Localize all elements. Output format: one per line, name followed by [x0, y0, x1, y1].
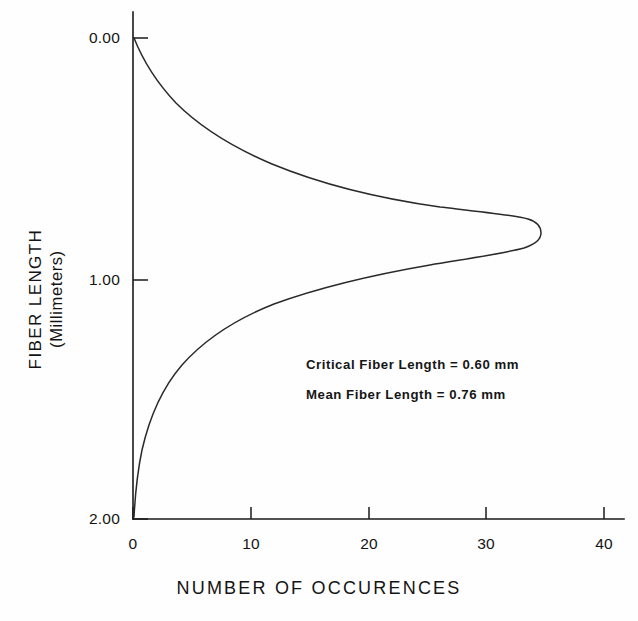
chart-figure: 0.00 1.00 2.00 0 10 20 30 40 FIBER LENGT… — [0, 0, 638, 621]
annotation-critical-fiber-length: Critical Fiber Length = 0.60 mm — [306, 357, 576, 372]
chart-annotations: Critical Fiber Length = 0.60 mm Mean Fib… — [306, 357, 576, 417]
y-axis-title: FIBER LENGTH (Millimeters) — [25, 169, 67, 429]
x-tick-label-40: 40 — [595, 535, 613, 553]
y-tick-label-0: 0.00 — [58, 29, 120, 47]
x-tick-label-30: 30 — [477, 535, 495, 553]
x-tick-label-0: 0 — [129, 535, 138, 553]
annotation-mean-fiber-length: Mean Fiber Length = 0.76 mm — [306, 387, 576, 402]
y-tick-label-1: 1.00 — [58, 271, 120, 289]
y-axis-title-line2: (Millimeters) — [46, 169, 67, 429]
y-tick-label-2: 2.00 — [58, 510, 120, 528]
y-axis-title-line1: FIBER LENGTH — [25, 169, 46, 429]
x-tick-label-10: 10 — [242, 535, 260, 553]
distribution-curve — [134, 38, 541, 517]
x-tick-label-20: 20 — [360, 535, 378, 553]
x-axis-title: NUMBER OF OCCURENCES — [0, 578, 638, 599]
